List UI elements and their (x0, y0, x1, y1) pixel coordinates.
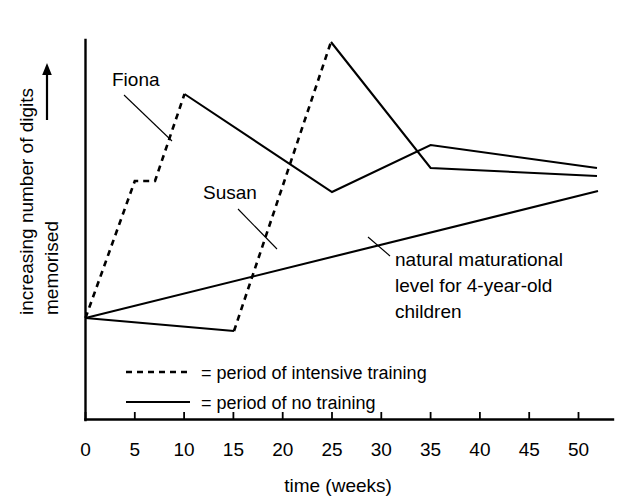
fiona-leader-line (124, 95, 172, 141)
susan-annotation: Susan (203, 182, 277, 249)
x-tick-label-0: 0 (80, 439, 91, 460)
legend: = period of intensive training = period … (126, 363, 427, 413)
x-tick-label-25: 25 (321, 439, 342, 460)
fiona-label: Fiona (112, 69, 160, 90)
x-tick-label-20: 20 (272, 439, 293, 460)
x-tick-label-10: 10 (174, 439, 195, 460)
x-tick-label-5: 5 (130, 439, 141, 460)
x-tick-label-35: 35 (420, 439, 441, 460)
series-susan-solid-segment-2 (331, 42, 597, 176)
series-susan-solid-segment-1 (86, 318, 235, 331)
natural-level-label-line3: children (395, 301, 462, 322)
x-tick-label-30: 30 (371, 439, 392, 460)
susan-leader-line (238, 209, 277, 249)
up-arrow-icon (42, 63, 52, 120)
natural-level-annotation: natural maturational level for 4-year-ol… (368, 237, 563, 322)
susan-label: Susan (203, 182, 257, 203)
y-axis-title-line2: memorised (41, 221, 62, 315)
natural-level-label-line1: natural maturational (395, 249, 563, 270)
fiona-annotation: Fiona (112, 69, 172, 141)
legend-item-no-training: = period of no training (126, 393, 376, 413)
chart-figure: 0 5 10 15 20 25 30 35 40 45 50 time (wee… (0, 0, 628, 501)
x-tick-label-40: 40 (469, 439, 490, 460)
x-tick-label-15: 15 (223, 439, 244, 460)
x-tick-label-45: 45 (519, 439, 540, 460)
y-axis-title-line1: increasing number of digits (16, 88, 37, 315)
y-axis-title-group: increasing number of digits memorised (16, 63, 62, 315)
line-chart: 0 5 10 15 20 25 30 35 40 45 50 time (wee… (0, 0, 628, 501)
legend-label-intensive-training: = period of intensive training (201, 363, 427, 383)
natural-level-label-line2: level for 4-year-old (395, 275, 552, 296)
legend-label-no-training: = period of no training (201, 393, 376, 413)
x-axis-title: time (weeks) (284, 475, 392, 496)
x-tick-labels: 0 5 10 15 20 25 30 35 40 45 50 (80, 439, 589, 460)
legend-item-intensive-training: = period of intensive training (126, 363, 427, 383)
series-fiona-solid-segment (185, 94, 598, 192)
series-fiona-dashed-segment (86, 94, 185, 318)
x-tick-label-50: 50 (568, 439, 589, 460)
